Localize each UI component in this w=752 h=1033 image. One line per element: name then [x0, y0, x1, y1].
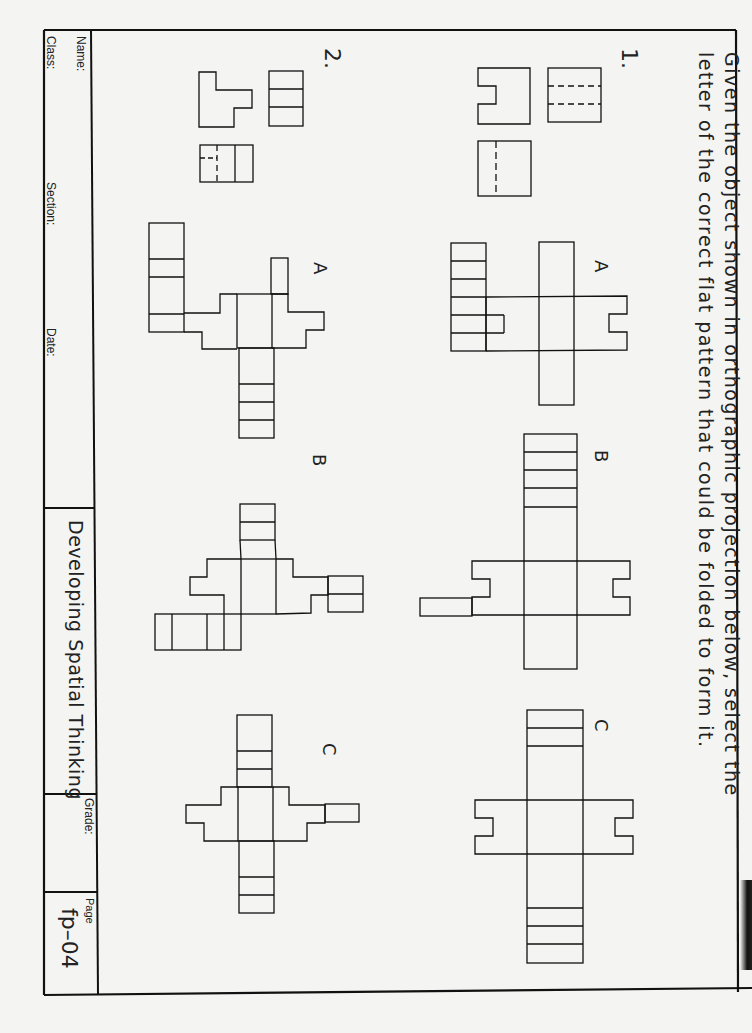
page-label: Page: [84, 898, 96, 924]
date-label: Date:: [44, 328, 58, 357]
problem-2-option-b-label[interactable]: B: [309, 454, 330, 466]
class-label: Class:: [44, 36, 58, 69]
section-label: Section:: [44, 182, 58, 225]
instructions-line-2: letter of the correct flat pattern that …: [695, 52, 717, 749]
problem-1-option-a-label[interactable]: A: [591, 260, 612, 272]
name-label: Name:: [74, 36, 88, 71]
problem-1-option-c-label[interactable]: C: [591, 719, 612, 732]
problem-2-views: [199, 71, 303, 182]
page-number: fp–04: [57, 908, 82, 969]
instructions-line-1: Given the object shown in orthographic p…: [721, 52, 743, 797]
problem-1-option-b-label[interactable]: B: [591, 450, 612, 462]
grade-label: Grade:: [82, 798, 96, 835]
problem-2-number: 2.: [320, 48, 345, 69]
course-title: Developing Spatial Thinking: [65, 520, 87, 800]
worksheet-drawing: [0, 0, 752, 1033]
problem-1-option-c-pattern: [475, 710, 633, 963]
problem-2-option-c-label[interactable]: C: [319, 743, 340, 756]
problem-1-number: 1.: [617, 48, 642, 69]
problem-2-option-a-label[interactable]: A: [310, 262, 331, 274]
problem-2-option-b-pattern: [155, 504, 363, 650]
scan-edge-shadow: [740, 880, 752, 970]
problem-1-option-b-pattern: [420, 434, 630, 669]
problem-2-option-a-pattern: [149, 223, 324, 438]
page-frame: [44, 30, 752, 995]
title-block-lines: [44, 30, 98, 995]
worksheet-page: Given the object shown in orthographic p…: [0, 0, 752, 1033]
problem-1-views: [478, 68, 601, 196]
